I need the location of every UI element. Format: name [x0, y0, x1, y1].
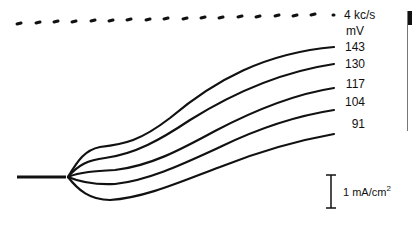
adjacent-panel-cap — [408, 11, 412, 25]
curve-label-130: 130 — [331, 57, 365, 71]
curve-label-91: 91 — [331, 117, 365, 131]
timing-marker-label: 4 kc/s — [344, 8, 375, 22]
trace-91 — [68, 134, 334, 200]
unit-label: mV — [346, 24, 364, 38]
trace-130 — [68, 64, 334, 177]
current-traces — [68, 47, 334, 200]
curve-label-117: 117 — [331, 77, 365, 91]
adjacent-panel-edge — [407, 11, 416, 131]
trace-117 — [68, 88, 334, 177]
timing-marker-dashes — [17, 14, 334, 24]
trace-104 — [68, 110, 334, 184]
scale-bar-unit: 1 mA/cm — [343, 186, 386, 198]
scale-bar-label: 1 mA/cm2 — [343, 185, 391, 199]
curve-label-104: 104 — [331, 95, 365, 109]
scale-bar-exponent: 2 — [386, 184, 390, 193]
curve-label-143: 143 — [331, 40, 365, 54]
scale-bar — [326, 175, 336, 208]
